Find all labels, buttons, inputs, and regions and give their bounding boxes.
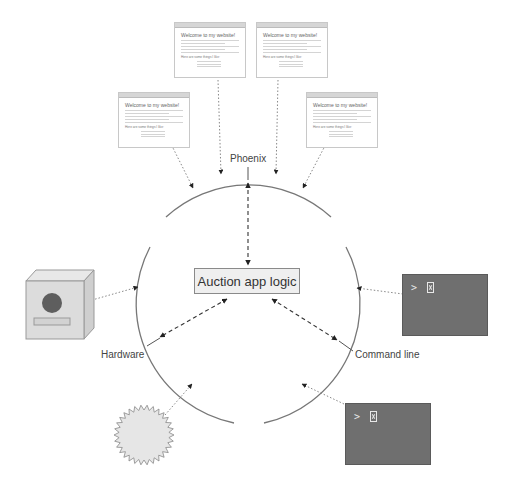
prompt-glyph: > <box>411 282 417 293</box>
browser-window: Welcome to my website! Here are some thi… <box>256 22 328 78</box>
browser-subheading: Here are some things I like: <box>313 125 371 129</box>
browser-heading: Welcome to my website! <box>263 32 327 38</box>
core-app-logic: Auction app logic <box>194 268 300 294</box>
arrow-browser4 <box>303 142 327 188</box>
browser-heading: Welcome to my website! <box>313 102 377 108</box>
arrow-core-commandline <box>272 299 337 340</box>
browser-window: Welcome to my website! Here are some thi… <box>118 92 190 148</box>
cursor-icon <box>370 411 377 422</box>
label-hardware: Hardware <box>101 349 144 360</box>
browser-subheading: Here are some things I like: <box>263 55 321 59</box>
label-command-line: Command line <box>355 349 419 360</box>
commandline-tick <box>339 341 353 351</box>
arrow-starburst <box>165 384 192 415</box>
arrow-terminal1 <box>357 288 403 294</box>
prompt-glyph: > <box>354 411 360 422</box>
browser-heading: Welcome to my website! <box>181 32 245 38</box>
arrow-browser3 <box>276 80 278 174</box>
cursor-icon <box>427 282 434 293</box>
browser-window: Welcome to my website! Here are some thi… <box>174 22 246 78</box>
terminal-window: > <box>402 274 488 336</box>
hardware-tick <box>147 338 160 346</box>
arrow-core-hardware <box>160 299 227 337</box>
sensor-starburst-icon <box>114 405 174 465</box>
arrow-browser2 <box>218 80 221 174</box>
browser-subheading: Here are some things I like: <box>125 125 183 129</box>
terminal-window: > <box>345 403 431 465</box>
hardware-box-icon <box>26 270 94 339</box>
browser-subheading: Here are some things I like: <box>181 55 239 59</box>
label-phoenix: Phoenix <box>230 153 266 164</box>
arrow-terminal2 <box>302 384 344 404</box>
browser-heading: Welcome to my website! <box>125 102 189 108</box>
browser-window: Welcome to my website! Here are some thi… <box>306 92 378 148</box>
arrow-browser1 <box>170 142 193 188</box>
